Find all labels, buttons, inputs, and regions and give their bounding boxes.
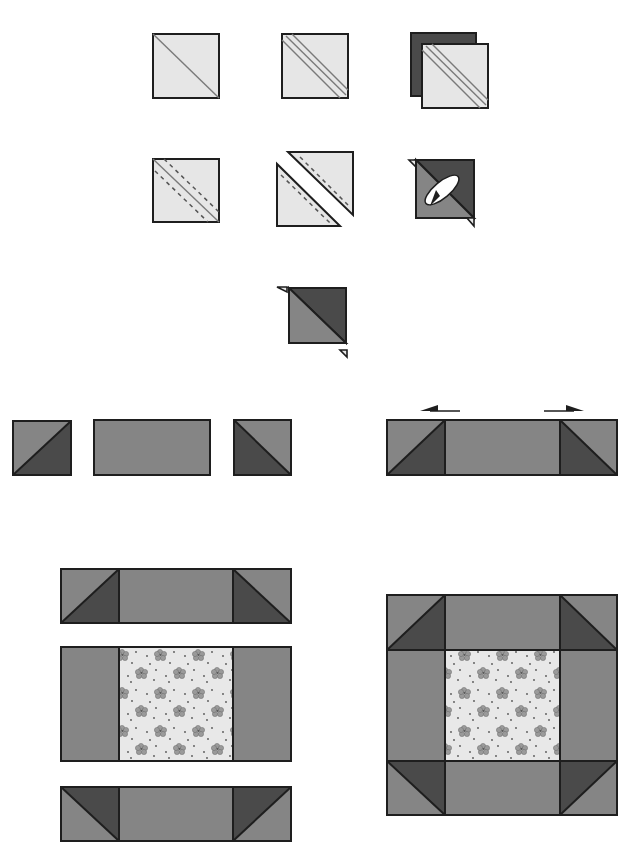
step-2-sewing-lines-square [282, 34, 348, 98]
side-rectangle-right [233, 647, 291, 761]
step-10-row-top [61, 569, 291, 623]
hst-unit-left [13, 421, 71, 475]
step-1-marked-square [153, 34, 219, 98]
dog-ear [340, 350, 347, 357]
step-8-row-layout [13, 420, 291, 475]
step-7-hst-dog-ears [277, 287, 347, 357]
print-center-square [119, 647, 233, 761]
step-3-layered-squares [411, 33, 488, 108]
light-square [282, 34, 348, 98]
step-6-pressed-hst [409, 160, 474, 226]
side-rectangle-left [61, 647, 119, 761]
press-arrow-left [420, 405, 460, 411]
dog-ear [409, 160, 416, 167]
light-square [422, 44, 488, 108]
press-arrow-right [544, 405, 584, 411]
dog-ear [467, 218, 474, 226]
step-11-finished-block [387, 595, 617, 815]
print-center-square [445, 650, 560, 761]
hst-unit-right [234, 420, 291, 475]
dog-ear [277, 287, 287, 292]
step-4-stitched-square [153, 159, 219, 222]
quilt-diagram [0, 0, 632, 860]
step-10-row-bottom [61, 787, 291, 841]
step-10-row-middle [61, 647, 291, 761]
step-9-sewn-row [387, 405, 617, 475]
rectangle-unit [94, 420, 210, 475]
step-5-cut-triangles [277, 152, 353, 226]
